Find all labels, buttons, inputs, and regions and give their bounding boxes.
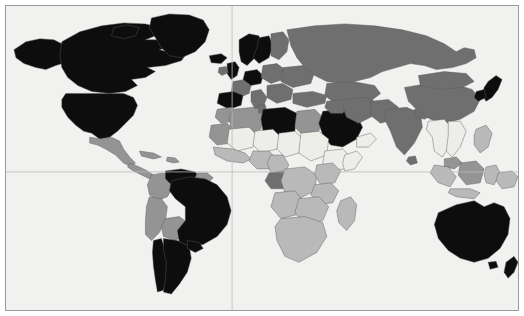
map-frame	[5, 5, 519, 311]
world-map-svg	[6, 6, 518, 310]
world-map-figure: World choropleth map	[0, 0, 524, 316]
